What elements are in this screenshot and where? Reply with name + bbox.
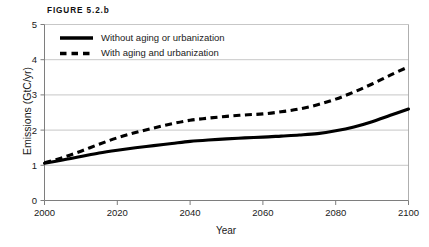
y-tick-label-0: 0 bbox=[32, 195, 37, 206]
x-axis-ticks: 200020202040206020802100 bbox=[34, 201, 419, 219]
chart-legend: Without aging or urbanizationWith aging … bbox=[60, 32, 225, 59]
x-tick-label-2080: 2080 bbox=[325, 207, 346, 218]
y-tick-label-1: 1 bbox=[32, 160, 37, 171]
data-series-group bbox=[45, 67, 409, 163]
y-axis-ticks: 012345 bbox=[32, 19, 45, 206]
x-tick-label-2000: 2000 bbox=[34, 207, 55, 218]
x-tick-label-2060: 2060 bbox=[252, 207, 273, 218]
y-tick-label-4: 4 bbox=[32, 54, 37, 65]
legend-label-0: Without aging or urbanization bbox=[101, 32, 225, 43]
x-tick-label-2100: 2100 bbox=[398, 207, 419, 218]
line-chart-plot: 012345 200020202040206020802100 Without … bbox=[0, 0, 429, 247]
plot-frame bbox=[45, 25, 409, 201]
figure-container: FIGURE 5.2.b Emissions (GtC/yr) Year 012… bbox=[0, 0, 429, 247]
x-tick-label-2020: 2020 bbox=[107, 207, 128, 218]
series-line-1 bbox=[45, 67, 409, 163]
y-tick-label-5: 5 bbox=[32, 19, 37, 30]
x-tick-label-2040: 2040 bbox=[180, 207, 201, 218]
gridlines-group bbox=[45, 25, 409, 201]
legend-label-1: With aging and urbanization bbox=[101, 47, 219, 58]
y-tick-label-3: 3 bbox=[32, 89, 37, 100]
y-tick-label-2: 2 bbox=[32, 125, 37, 136]
